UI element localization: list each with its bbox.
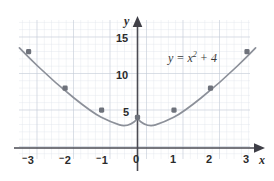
- x-tick-label--1: −1: [96, 154, 108, 166]
- x-tick-value: 2: [65, 154, 71, 166]
- y-tick-label-15: 15: [116, 33, 128, 44]
- x-tick-label--2: −2: [59, 154, 71, 166]
- x-tick-label-3: 3: [243, 154, 249, 165]
- x-tick-value: 3: [28, 154, 34, 166]
- equation-exponent: 2: [193, 50, 197, 59]
- x-tick-label--3: −3: [22, 154, 34, 166]
- x-tick-label-2: 2: [206, 154, 212, 165]
- minus-sign: −: [22, 153, 27, 163]
- minus-sign: −: [96, 153, 101, 163]
- y-axis-label: y: [124, 15, 129, 27]
- equation-label: y = x2 + 4: [168, 52, 217, 64]
- x-tick-label-1: 1: [170, 154, 176, 165]
- graph-figure: −3 −2 −1 0 1 2 3 5 10 15 x y y = x2 + 4: [0, 0, 274, 181]
- data-point: [99, 108, 104, 113]
- grid-major: [19, 20, 250, 159]
- x-axis-label: x: [259, 154, 265, 166]
- y-tick-label-5: 5: [123, 107, 129, 118]
- x-tick-label-0: 0: [133, 154, 139, 165]
- data-point: [171, 108, 176, 113]
- data-point: [63, 86, 68, 91]
- equation-plus: +: [200, 51, 208, 65]
- equation-equals: =: [176, 51, 184, 65]
- data-point: [26, 49, 31, 54]
- data-point: [208, 86, 213, 91]
- data-point: [244, 49, 249, 54]
- y-tick-label-10: 10: [116, 70, 128, 81]
- x-tick-value: 1: [102, 154, 108, 166]
- data-point: [135, 115, 140, 120]
- minus-sign: −: [59, 153, 64, 163]
- equation-constant: 4: [211, 51, 217, 65]
- equation-lhs: y: [168, 51, 173, 65]
